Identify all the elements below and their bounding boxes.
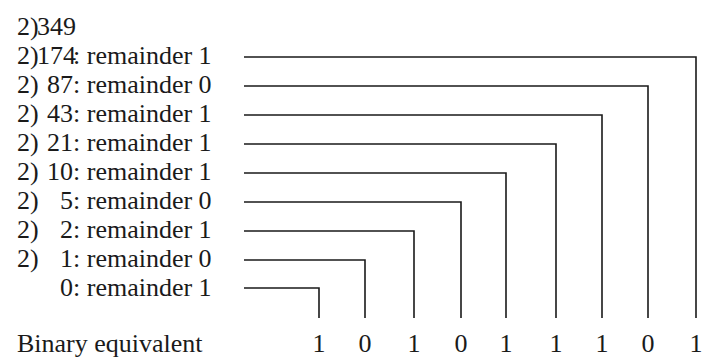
binary-digit: 1 — [404, 329, 424, 358]
connector-lines — [0, 0, 715, 364]
connector-line — [244, 231, 414, 318]
connector-line — [244, 288, 319, 318]
binary-digit: 1 — [496, 329, 516, 358]
binary-digit: 1 — [546, 329, 566, 358]
binary-digit: 0 — [451, 329, 471, 358]
binary-digit: 1 — [592, 329, 612, 358]
connector-line — [244, 173, 506, 318]
binary-digit: 0 — [355, 329, 375, 358]
connector-line — [244, 260, 365, 318]
binary-digit: 1 — [309, 329, 329, 358]
binary-equivalent-label: Binary equivalent — [17, 329, 203, 358]
binary-digit: 0 — [638, 329, 658, 358]
binary-digit: 1 — [686, 329, 706, 358]
connector-line — [244, 57, 696, 318]
